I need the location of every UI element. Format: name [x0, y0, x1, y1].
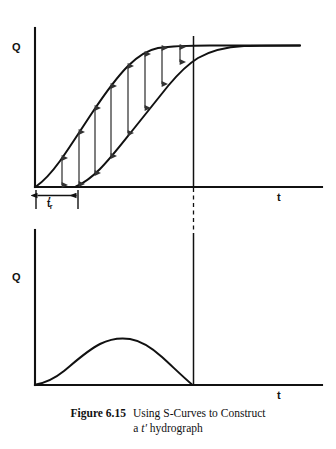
top-chart [35, 28, 322, 209]
hydrograph-curve [36, 338, 192, 384]
caption-line2-suffix: hydrograph [147, 422, 203, 434]
figure-container: Q t Q t t′r Figure 6.15Using S-Curves to… [0, 0, 336, 449]
top-chart-y-axis-label: Q [12, 42, 21, 53]
bottom-chart [35, 230, 322, 386]
bottom-chart-y-axis-label: Q [12, 272, 21, 283]
figure-number: Figure 6.15 [71, 407, 126, 419]
top-chart-x-axis-label: t [277, 192, 281, 203]
duration-label-subscript: r [50, 203, 53, 210]
duration-dimension-label: t′r [47, 196, 52, 210]
s-curve-original [36, 46, 300, 187]
difference-arrow-group [62, 47, 180, 185]
s-curve-lagged [76, 46, 300, 187]
figure-caption: Figure 6.15Using S-Curves to Construct a… [0, 406, 336, 436]
figure-svg [0, 0, 336, 449]
figure-caption-line1: Using S-Curves to Construct [133, 407, 266, 419]
figure-caption-line2: a t′ hydrograph [0, 421, 336, 436]
bottom-chart-x-axis-label: t [277, 390, 281, 401]
duration-dimension [36, 190, 78, 209]
caption-line2-prefix: a [133, 422, 141, 434]
